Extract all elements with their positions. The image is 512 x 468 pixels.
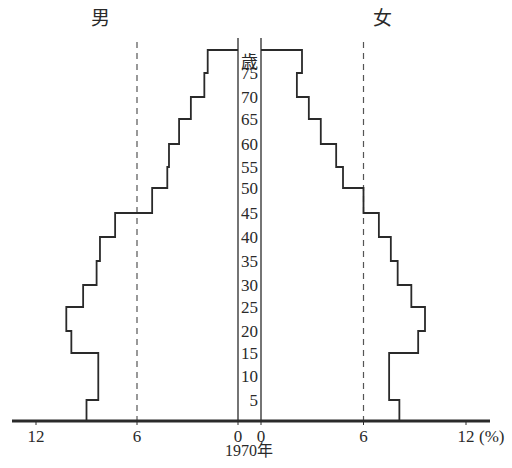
percent-unit-label: (%): [479, 427, 504, 446]
female-label: 女: [373, 8, 392, 29]
year-label: 1970年: [225, 442, 273, 459]
age-tick-label: 65: [241, 110, 258, 129]
age-tick-label: 50: [241, 179, 258, 198]
age-tick-label: 55: [241, 158, 258, 177]
male-label: 男: [91, 8, 110, 29]
age-tick-label: 35: [241, 252, 258, 271]
age-tick-label: 20: [241, 322, 258, 341]
age-tick-label: 40: [241, 228, 258, 247]
age-tick-label: 15: [241, 344, 258, 363]
female-population-outline: [261, 50, 425, 420]
age-tick-label: 10: [241, 367, 258, 386]
age-tick-label: 30: [241, 276, 258, 295]
age-tick-label: 25: [241, 298, 258, 317]
female-tick-label: 12: [458, 427, 475, 446]
age-tick-label: 60: [241, 135, 258, 154]
age-tick-label: 5: [250, 391, 259, 410]
male-tick-label: 6: [133, 427, 142, 446]
age-tick-label: 70: [241, 88, 258, 107]
male-tick-label: 12: [28, 427, 45, 446]
age-tick-label: 45: [241, 204, 258, 223]
population-pyramid-chart: 男 女 歳51015202530354045505560657075 00661…: [0, 0, 512, 468]
age-axis: 歳51015202530354045505560657075: [238, 38, 261, 420]
male-population-outline: [66, 50, 238, 420]
age-tick-label: 75: [241, 64, 258, 83]
female-tick-label: 6: [359, 427, 368, 446]
